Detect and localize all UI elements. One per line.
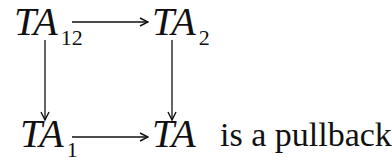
node-top-right-base: TA xyxy=(152,0,196,44)
node-top-right: TA2 xyxy=(152,2,210,42)
node-bottom-right-base: TA xyxy=(152,111,196,156)
node-bottom-left-subscript: 1 xyxy=(67,137,78,162)
node-bottom-left-base: TA xyxy=(20,111,64,156)
node-bottom-right: TA xyxy=(152,114,196,154)
node-top-right-subscript: 2 xyxy=(199,25,210,50)
node-top-left-base: TA xyxy=(14,0,58,44)
node-top-left: TA12 xyxy=(14,2,83,42)
node-top-left-subscript: 12 xyxy=(61,25,83,50)
node-bottom-left: TA1 xyxy=(20,114,78,154)
diagram-caption: is a pullback xyxy=(220,118,392,152)
